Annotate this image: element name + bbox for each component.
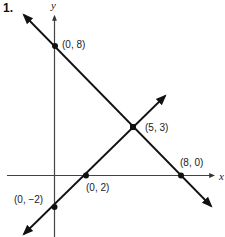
label-0-2: (0, 2) — [86, 182, 109, 193]
label-0-8: (0, 8) — [62, 39, 85, 50]
point-0-2 — [83, 173, 89, 179]
coordinate-diagram: 1. y x (0, 8) (5, 3) (8, 0) (0, 2) (0, −… — [0, 0, 225, 237]
label-5-3: (5, 3) — [145, 122, 168, 133]
x-axis-label: x — [218, 170, 224, 182]
y-axis-label: y — [50, 0, 56, 11]
point-8-0 — [178, 173, 184, 179]
point-0-8 — [52, 43, 58, 49]
point-5-3 — [130, 124, 136, 130]
label-8-0: (8, 0) — [180, 157, 203, 168]
label-0-neg2: (0, −2) — [14, 194, 43, 205]
point-0-neg2 — [52, 204, 58, 210]
problem-number: 1. — [3, 1, 13, 15]
increasing-line — [24, 96, 165, 234]
